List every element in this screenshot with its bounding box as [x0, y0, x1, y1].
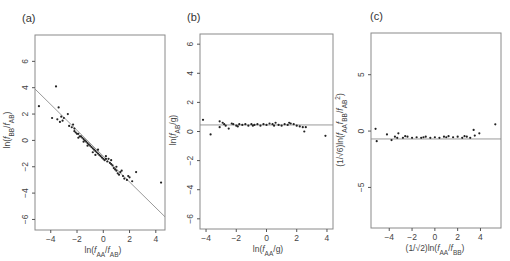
- data-point: [97, 149, 99, 151]
- x-tick-label: 2: [127, 234, 132, 244]
- y-tick-label: −4: [185, 185, 195, 195]
- data-point: [59, 121, 61, 123]
- y-tick-label: 0: [20, 138, 30, 143]
- data-point: [92, 151, 94, 153]
- data-point: [67, 113, 69, 115]
- x-tick-label: 0: [101, 234, 106, 244]
- data-point: [38, 105, 40, 107]
- data-point: [58, 106, 60, 108]
- data-point: [56, 118, 58, 120]
- data-point: [107, 158, 109, 160]
- data-point: [447, 135, 449, 137]
- data-point: [445, 136, 447, 138]
- data-point: [231, 122, 233, 124]
- data-point: [268, 122, 270, 124]
- data-point: [287, 124, 289, 126]
- data-point: [82, 141, 84, 143]
- data-point: [126, 179, 128, 181]
- data-point: [265, 124, 267, 126]
- x-tick-label: 4: [478, 232, 483, 242]
- data-point: [474, 134, 476, 136]
- data-point: [463, 135, 465, 137]
- panel-label: (c): [370, 10, 383, 22]
- data-point: [73, 130, 75, 132]
- data-point: [443, 136, 445, 138]
- y-tick-label: −6: [20, 214, 30, 224]
- data-point: [202, 119, 204, 121]
- data-point: [434, 136, 436, 138]
- data-point: [111, 164, 113, 166]
- data-point: [77, 137, 79, 139]
- data-point: [376, 140, 378, 142]
- data-point: [237, 125, 239, 127]
- y-tick-label: 6: [185, 42, 195, 47]
- data-point: [390, 139, 392, 141]
- data-point: [406, 136, 408, 138]
- data-point: [386, 133, 388, 135]
- data-point: [209, 133, 211, 135]
- data-point: [461, 137, 463, 139]
- data-point: [284, 123, 286, 125]
- y-tick-label: 4: [185, 71, 195, 76]
- reference-line: [35, 89, 165, 217]
- data-point: [68, 125, 70, 127]
- plot-frame: [200, 34, 333, 229]
- y-tick-label: 5: [356, 72, 366, 77]
- data-point: [305, 126, 307, 128]
- data-point: [299, 125, 301, 127]
- panel-b: (b)−4−2024−6−4−20246ln(fAA/g)ln(fAB/g): [168, 11, 333, 257]
- data-point: [118, 174, 120, 176]
- data-point: [241, 124, 243, 126]
- data-point: [478, 132, 480, 134]
- data-point: [397, 132, 399, 134]
- y-axis-label: ln(fBB/fAB): [2, 111, 15, 148]
- data-point: [61, 120, 63, 122]
- x-tick-label: −2: [231, 233, 241, 243]
- y-tick-label: −4: [20, 188, 30, 198]
- data-point: [122, 175, 124, 177]
- data-point: [296, 125, 298, 127]
- data-point: [473, 129, 475, 131]
- data-point: [288, 122, 290, 124]
- data-point: [457, 136, 459, 138]
- data-point: [324, 135, 326, 137]
- x-tick-label: 4: [325, 233, 330, 243]
- data-point: [72, 123, 74, 125]
- panel-label: (b): [187, 11, 200, 23]
- y-tick-label: −2: [20, 162, 30, 172]
- data-point: [274, 122, 276, 124]
- data-point: [396, 137, 398, 139]
- data-point: [51, 117, 53, 119]
- data-point: [494, 123, 496, 125]
- data-point: [404, 135, 406, 137]
- x-axis-label: (1/√2)ln(fAA/fBB): [406, 243, 465, 256]
- y-tick-label: −5: [356, 182, 366, 192]
- data-point: [94, 154, 96, 156]
- data-point: [73, 127, 75, 129]
- data-point: [293, 123, 295, 125]
- data-point: [77, 133, 79, 135]
- data-point: [121, 170, 123, 172]
- data-point: [225, 125, 227, 127]
- data-point: [422, 136, 424, 138]
- data-point: [411, 137, 413, 139]
- x-tick-label: 2: [294, 233, 299, 243]
- data-point: [55, 85, 57, 87]
- data-point: [115, 166, 117, 168]
- data-point: [281, 125, 283, 127]
- x-tick-label: −2: [407, 232, 417, 242]
- data-point: [273, 125, 275, 127]
- data-point: [238, 123, 240, 125]
- data-point: [469, 137, 471, 139]
- data-point: [71, 126, 73, 128]
- x-axis-label: ln(fAA/g): [253, 244, 284, 257]
- data-point: [115, 170, 117, 172]
- data-point: [374, 128, 376, 130]
- x-tick-label: −4: [201, 233, 211, 243]
- scatter-points: [38, 85, 162, 183]
- panel-c: (c)−4−2024−505(1/√2)ln(fAA/fBB)(1/√6)ln(…: [334, 10, 502, 256]
- x-axis-label: ln(fAA/fAB): [85, 245, 122, 258]
- y-axis-label: ln(fAB/g): [168, 115, 181, 146]
- data-point: [160, 181, 162, 183]
- y-tick-label: 0: [356, 128, 366, 133]
